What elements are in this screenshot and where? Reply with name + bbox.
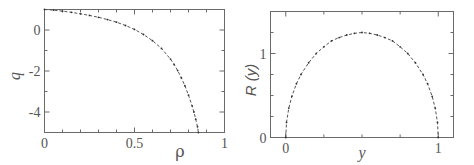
panel-R-vs-y: 0101 R (y) y xyxy=(242,12,454,163)
data-point xyxy=(170,58,172,60)
y-axis-label-left: q xyxy=(6,72,24,80)
data-point xyxy=(300,74,302,76)
tick-marks-right xyxy=(271,12,454,138)
data-point xyxy=(180,77,182,79)
data-point xyxy=(195,118,197,120)
data-point xyxy=(437,137,439,139)
x-tick-label: 0 xyxy=(41,136,48,151)
data-point xyxy=(125,25,127,27)
data-point xyxy=(346,34,348,36)
data-point xyxy=(193,111,195,113)
y-tick-label: 0 xyxy=(260,131,267,146)
panel-q-vs-rho: 00.510-2-4 q ρ xyxy=(6,9,228,161)
data-point xyxy=(427,83,429,85)
x-axis-label-left: ρ xyxy=(175,142,184,161)
y-tick-label: 0 xyxy=(34,23,41,38)
plot-frame-left xyxy=(45,10,225,133)
data-point xyxy=(331,40,333,42)
data-point xyxy=(392,40,394,42)
x-tick-label: 1 xyxy=(435,141,442,156)
data-point xyxy=(143,34,145,36)
data-point xyxy=(399,46,401,48)
y-tick-label: -2 xyxy=(29,64,41,79)
x-tick-label: 0.5 xyxy=(126,136,144,151)
data-point xyxy=(376,34,378,36)
data-point xyxy=(134,28,136,30)
figure: 00.510-2-4 q ρ 0101 R (y) y xyxy=(0,0,474,165)
data-point xyxy=(288,107,290,109)
series-line-right xyxy=(286,33,439,138)
data-point xyxy=(353,32,355,34)
y-axis-label-right: R (y) xyxy=(242,64,259,97)
data-point xyxy=(407,53,409,55)
data-point xyxy=(384,37,386,39)
tick-labels-right: 0101 xyxy=(260,47,442,156)
data-point xyxy=(71,11,73,13)
data-point xyxy=(414,62,416,64)
data-point xyxy=(323,46,325,48)
plot-frame-right xyxy=(271,12,454,138)
data-point xyxy=(191,105,193,107)
data-point xyxy=(173,64,175,66)
data-point xyxy=(422,74,424,76)
data-point xyxy=(285,137,287,139)
data-point xyxy=(291,95,293,97)
data-point xyxy=(98,16,100,18)
data-point xyxy=(116,21,118,23)
x-tick-label: 0 xyxy=(282,141,289,156)
data-point xyxy=(286,121,288,123)
tick-marks-left xyxy=(45,10,225,133)
data-point xyxy=(296,83,298,85)
data-point xyxy=(431,95,433,97)
data-point xyxy=(188,94,190,96)
x-tick-label: 1 xyxy=(221,136,228,151)
y-tick-label: -4 xyxy=(29,105,41,120)
y-tick-label: 1 xyxy=(260,47,267,62)
data-point xyxy=(361,32,363,34)
series-right xyxy=(285,32,439,139)
data-point xyxy=(197,126,199,128)
data-point xyxy=(80,13,82,15)
x-axis-label-right: y xyxy=(356,144,366,162)
data-point xyxy=(44,9,46,11)
data-point xyxy=(152,40,154,42)
data-point xyxy=(53,9,55,11)
data-point xyxy=(437,121,439,123)
data-point xyxy=(308,62,310,64)
series-line-left xyxy=(45,10,199,133)
data-point xyxy=(62,10,64,12)
data-point xyxy=(315,53,317,55)
data-point xyxy=(434,107,436,109)
data-point xyxy=(198,132,200,134)
data-point xyxy=(338,37,340,39)
data-point xyxy=(369,32,371,34)
data-point xyxy=(107,19,109,21)
series-left xyxy=(44,9,200,134)
data-point xyxy=(89,15,91,17)
data-point xyxy=(184,85,186,87)
data-point xyxy=(161,48,163,50)
data-point xyxy=(177,70,179,72)
